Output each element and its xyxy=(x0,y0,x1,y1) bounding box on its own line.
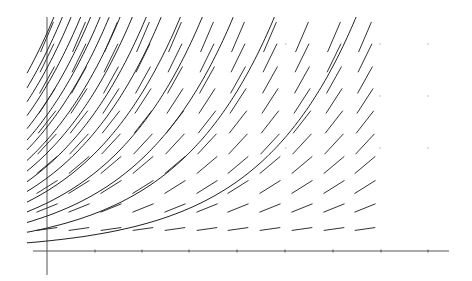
slope-segment xyxy=(69,204,89,212)
slope-segment xyxy=(325,111,342,133)
slope-segments xyxy=(37,22,375,230)
slope-segment xyxy=(135,89,151,113)
slope-segment xyxy=(102,134,120,154)
slope-segment xyxy=(73,22,86,51)
solution-curve xyxy=(27,17,274,232)
slope-segment xyxy=(101,181,121,194)
slope-segment xyxy=(197,157,217,174)
slope-segment xyxy=(263,67,278,93)
solution-curve xyxy=(27,17,62,88)
slope-segment xyxy=(359,22,372,51)
solution-curve xyxy=(27,17,81,116)
slope-segment xyxy=(326,89,342,113)
slope-segment xyxy=(69,228,89,231)
slope-segment xyxy=(169,22,182,51)
slope-field-plot xyxy=(0,0,472,281)
slope-segment xyxy=(228,181,248,194)
slope-segment xyxy=(230,89,246,113)
slope-segment xyxy=(166,134,184,154)
slope-segment xyxy=(261,134,279,154)
slope-segment xyxy=(292,204,312,212)
slope-segment xyxy=(165,228,185,231)
slope-segment xyxy=(260,157,280,174)
slope-segment xyxy=(260,181,280,194)
slope-segment xyxy=(327,67,342,93)
slope-segment xyxy=(167,89,183,113)
slope-segment xyxy=(292,157,312,174)
axes xyxy=(33,17,449,275)
slope-segment xyxy=(292,181,312,194)
slope-segment xyxy=(229,134,247,154)
slope-segment xyxy=(262,89,278,113)
slope-segment xyxy=(358,67,373,93)
slope-segment xyxy=(168,67,183,93)
slope-segment xyxy=(228,157,248,174)
slope-segment xyxy=(356,111,373,133)
slope-segment xyxy=(228,204,248,212)
grid-dot xyxy=(285,43,287,45)
slope-segment xyxy=(69,157,89,174)
grid-dot xyxy=(427,95,429,97)
slope-segment xyxy=(324,157,344,174)
grid-dot xyxy=(379,43,381,45)
slope-segment xyxy=(69,181,89,194)
grid-dot xyxy=(427,147,429,149)
slope-segment xyxy=(260,228,280,231)
slope-segment xyxy=(261,111,278,133)
slope-segment xyxy=(229,111,246,133)
grid-dot xyxy=(285,147,287,149)
slope-segment xyxy=(260,204,280,212)
grid-dot xyxy=(379,95,381,97)
slope-segment xyxy=(294,89,310,113)
slope-segment xyxy=(165,181,185,194)
slope-segment xyxy=(70,134,88,154)
slope-segment xyxy=(71,89,87,113)
slope-segment xyxy=(133,204,153,212)
slope-segment xyxy=(198,111,215,133)
slope-segment xyxy=(199,89,215,113)
slope-segment xyxy=(324,228,344,231)
slope-segment xyxy=(197,228,217,231)
grid-dot xyxy=(379,147,381,149)
slope-segment xyxy=(356,134,374,154)
slope-segment xyxy=(355,157,375,174)
slope-segment xyxy=(324,181,344,194)
slope-segment xyxy=(104,67,119,93)
slope-segment xyxy=(165,157,185,174)
slope-segment xyxy=(136,67,151,93)
slope-segment xyxy=(232,22,245,51)
slope-segment xyxy=(197,181,217,194)
slope-segment xyxy=(198,134,216,154)
slope-segment xyxy=(228,228,248,231)
slope-segment xyxy=(292,228,312,231)
slope-segment xyxy=(293,134,311,154)
slope-segment xyxy=(355,228,375,231)
slope-segment xyxy=(324,204,344,212)
slope-segment xyxy=(70,111,87,133)
slope-segment xyxy=(357,89,373,113)
slope-segment xyxy=(295,67,310,93)
slope-segment xyxy=(293,111,310,133)
slope-segment xyxy=(103,89,119,113)
slope-segment xyxy=(355,204,375,212)
slope-segment xyxy=(102,111,119,133)
slope-segment xyxy=(101,204,121,212)
slope-segment xyxy=(197,204,217,212)
slope-segment xyxy=(296,22,309,51)
grid-dot xyxy=(427,43,429,45)
slope-segment xyxy=(201,22,214,51)
slope-segment xyxy=(133,181,153,194)
slope-segment xyxy=(355,181,375,194)
slope-segment xyxy=(133,157,153,174)
slope-segment xyxy=(200,67,215,93)
slope-segment xyxy=(328,22,341,51)
slope-segment xyxy=(325,134,343,154)
slope-segment xyxy=(133,228,153,231)
